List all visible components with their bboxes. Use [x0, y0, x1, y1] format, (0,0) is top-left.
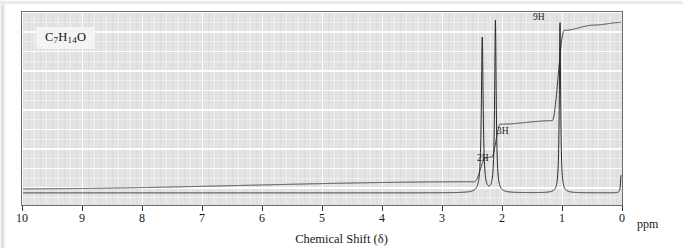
spectrum-traces [22, 12, 622, 205]
x-axis-tick-label-6: 6 [259, 211, 265, 226]
molecular-formula-label: C7H14O [36, 27, 95, 49]
x-axis-tick-label-0: 0 [619, 211, 625, 226]
x-axis-tick-label-3: 3 [439, 211, 445, 226]
x-axis-tick-label-7: 7 [199, 211, 205, 226]
spectrum-plot-area [21, 11, 623, 206]
x-axis-tick-label-10: 10 [16, 211, 28, 226]
x-axis-title: Chemical Shift (δ) [0, 232, 683, 247]
page-gutter-top [0, 0, 683, 5]
x-axis-tick-label-9: 9 [79, 211, 85, 226]
x-axis: 109876543210 ppm Chemical Shift (δ) [0, 206, 683, 248]
x-axis-tick-label-5: 5 [319, 211, 325, 226]
x-axis-tick-label-8: 8 [139, 211, 145, 226]
x-axis-tick-label-1: 1 [559, 211, 565, 226]
formula-o: O [77, 30, 86, 44]
x-axis-unit-label: ppm [637, 217, 658, 232]
integration-label-3h: 3H [497, 126, 509, 136]
x-axis-tick-label-4: 4 [379, 211, 385, 226]
nmr-spectrum-figure: C7H14O 9H 3H 2H 109876543210 ppm Chemica… [0, 0, 683, 248]
integration-label-2h: 2H [477, 153, 489, 163]
spectrum-trace-path [23, 20, 621, 193]
integration-label-9h: 9H [533, 12, 545, 22]
formula-c: C [45, 30, 54, 44]
formula-h-count: 14 [67, 35, 76, 45]
integration-trace-path [23, 22, 621, 188]
x-axis-tick-label-2: 2 [499, 211, 505, 226]
